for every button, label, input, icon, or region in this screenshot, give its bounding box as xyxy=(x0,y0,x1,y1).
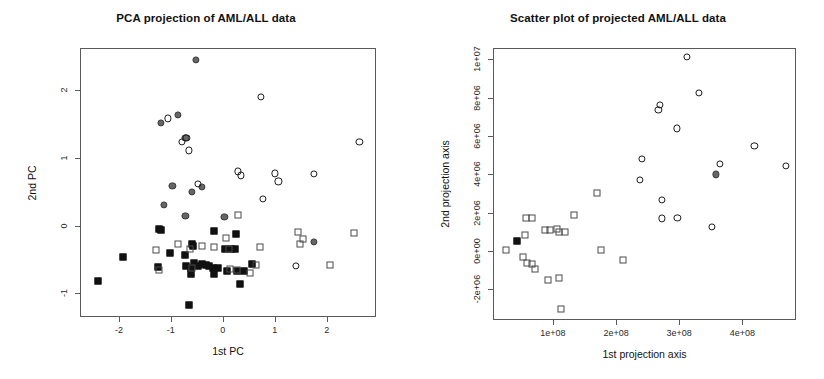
y-axis-tick xyxy=(488,174,493,175)
x-axis-tick xyxy=(119,317,120,322)
data-point-open-square xyxy=(300,236,307,243)
data-point-open-square xyxy=(153,246,160,253)
data-point-open-square xyxy=(210,243,217,250)
y-axis-tick-label: 4e+06 xyxy=(472,162,482,187)
x-axis-tick xyxy=(553,320,554,325)
x-axis-tick-label: 2e+08 xyxy=(603,328,628,338)
x-axis-title-projection: 1st projection axis xyxy=(602,348,686,360)
y-axis-tick xyxy=(75,90,80,91)
data-point-open-square xyxy=(225,245,232,252)
x-axis-tick xyxy=(275,317,276,322)
data-point-open-square xyxy=(597,247,604,254)
x-axis-tick-label: -1 xyxy=(167,325,175,335)
y-axis-title-projection: 2nd projection axis xyxy=(439,140,451,228)
data-point-open-square xyxy=(350,229,357,236)
data-point-open-square xyxy=(546,227,553,234)
data-point-filled-square xyxy=(210,227,217,234)
data-point-open-square xyxy=(529,215,536,222)
y-axis-tick xyxy=(488,98,493,99)
data-point-open-square xyxy=(189,264,196,271)
chart-title-pca: PCA projection of AML/ALL data xyxy=(0,12,412,24)
data-point-open-square xyxy=(561,229,568,236)
data-point-open-square xyxy=(571,212,578,219)
y-axis-title-pca: 2nd PC xyxy=(26,165,38,200)
plot-area-pca xyxy=(80,48,376,317)
data-point-filled-square xyxy=(158,227,165,234)
y-axis-tick-label: 2 xyxy=(59,87,69,92)
plot-area-projection xyxy=(493,48,796,320)
chart-title-projection: Scatter plot of projected AML/ALL data xyxy=(412,12,824,24)
x-axis-tick xyxy=(679,320,680,325)
data-point-open-square xyxy=(175,241,182,248)
chart-panel-projection: Scatter plot of projected AML/ALL data 1… xyxy=(412,0,824,379)
x-axis-tick xyxy=(223,317,224,322)
data-point-open-square xyxy=(233,267,240,274)
data-point-filled-square xyxy=(210,271,217,278)
data-point-filled-square xyxy=(237,280,244,287)
y-axis-tick xyxy=(488,59,493,60)
data-point-filled-square xyxy=(181,252,188,259)
data-point-filled-square xyxy=(119,253,126,260)
y-axis-tick-label: -1 xyxy=(59,289,69,297)
data-point-open-square xyxy=(247,269,254,276)
y-axis-tick xyxy=(488,289,493,290)
y-axis-tick xyxy=(75,293,80,294)
y-axis-tick-label: 8e+06 xyxy=(472,85,482,110)
y-axis-tick-label: 2e+06 xyxy=(472,200,482,225)
data-point-open-square xyxy=(521,232,528,239)
data-point-open-square xyxy=(594,189,601,196)
data-point-open-square xyxy=(327,261,334,268)
data-point-open-square xyxy=(223,235,230,242)
x-axis-tick xyxy=(327,317,328,322)
data-point-open-square xyxy=(186,246,193,253)
data-point-open-square xyxy=(199,242,206,249)
data-point-filled-square xyxy=(167,249,174,256)
data-point-open-square xyxy=(502,247,509,254)
y-axis-tick xyxy=(488,251,493,252)
data-point-open-square xyxy=(235,212,242,219)
x-axis-tick xyxy=(742,320,743,325)
y-axis-tick-label: 0e+00 xyxy=(472,238,482,263)
x-axis-tick-label: 2 xyxy=(324,325,329,335)
y-axis-tick xyxy=(75,158,80,159)
x-axis-tick-label: -2 xyxy=(115,325,123,335)
y-axis-tick-label: -2e+06 xyxy=(472,275,482,303)
data-point-filled-square xyxy=(232,246,239,253)
data-point-open-square xyxy=(620,257,627,264)
x-axis-tick-label: 1 xyxy=(272,325,277,335)
data-point-open-square xyxy=(556,275,563,282)
data-point-open-square xyxy=(253,261,260,268)
data-point-filled-square xyxy=(513,237,520,244)
data-point-filled-square xyxy=(94,278,101,285)
figure-root: PCA projection of AML/ALL data 1st PC 2n… xyxy=(0,0,824,379)
y-axis-tick-label: 0 xyxy=(59,223,69,228)
x-axis-tick xyxy=(616,320,617,325)
data-point-filled-square xyxy=(232,231,239,238)
data-point-open-square xyxy=(226,265,233,272)
y-axis-tick-label: 1e+07 xyxy=(472,47,482,72)
data-point-open-square xyxy=(532,265,539,272)
y-axis-tick xyxy=(488,136,493,137)
chart-panel-pca: PCA projection of AML/ALL data 1st PC 2n… xyxy=(0,0,412,379)
x-axis-tick-label: 1e+08 xyxy=(540,328,565,338)
y-axis-tick-label: 1 xyxy=(59,155,69,160)
x-axis-tick xyxy=(171,317,172,322)
x-axis-title-pca: 1st PC xyxy=(212,345,244,357)
x-axis-tick-label: 3e+08 xyxy=(667,328,692,338)
y-axis-tick-label: 6e+06 xyxy=(472,123,482,148)
x-axis-tick-label: 0 xyxy=(220,325,225,335)
y-axis-tick xyxy=(488,213,493,214)
data-point-open-square xyxy=(256,243,263,250)
y-axis-tick xyxy=(75,226,80,227)
data-point-filled-square xyxy=(185,302,192,309)
data-point-open-square xyxy=(558,305,565,312)
data-point-open-square xyxy=(544,277,551,284)
data-point-open-square xyxy=(155,267,162,274)
data-point-filled-square xyxy=(187,271,194,278)
x-axis-tick-label: 4e+08 xyxy=(730,328,755,338)
